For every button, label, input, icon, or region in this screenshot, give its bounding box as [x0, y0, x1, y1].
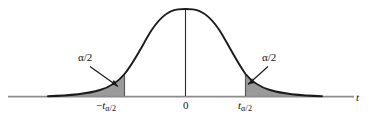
alpha-over-two-subscript: α/2	[105, 104, 116, 113]
x-axis-variable-label: t	[356, 92, 359, 103]
left-tail-area-label: α/2	[78, 52, 92, 63]
origin-tick-label: 0	[183, 100, 189, 111]
t-distribution-figure: α/2 α/2 −tα/2 0 tα/2 t	[0, 0, 371, 122]
right-critical-value-label: tα/2	[238, 100, 252, 113]
right-tail-area-label: α/2	[262, 52, 276, 63]
alpha-over-two-subscript: α/2	[241, 104, 252, 113]
left-critical-value-label: −tα/2	[96, 100, 116, 113]
